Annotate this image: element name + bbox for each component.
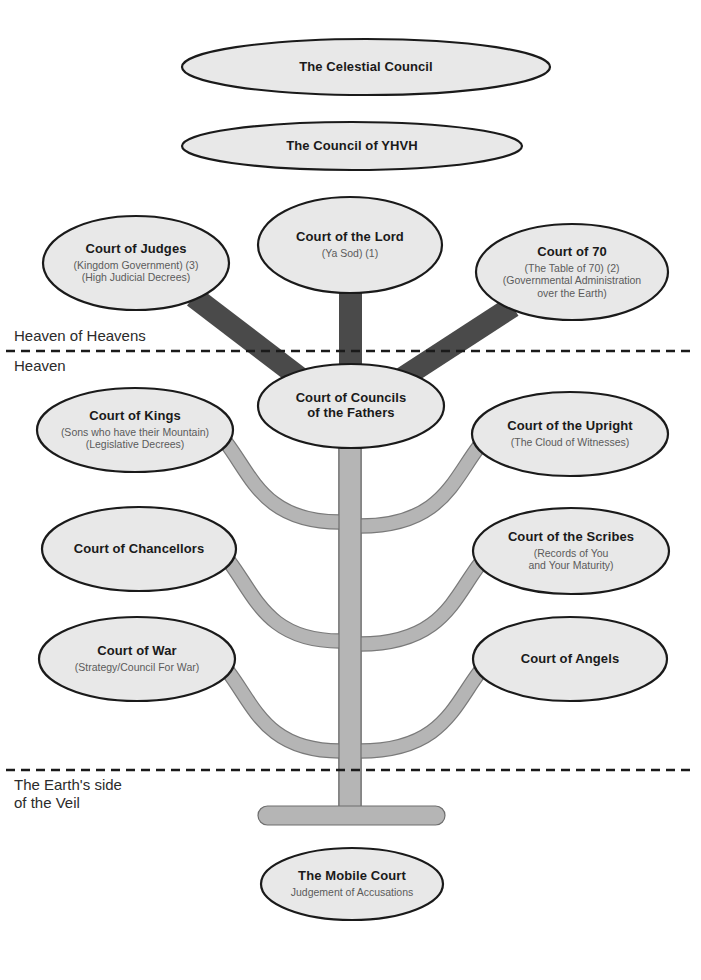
node-court-of-the-lord[interactable]: Court of the Lord(Ya Sod) (1) — [258, 197, 442, 293]
node-title: Court of Kings — [89, 409, 181, 424]
node-subtitle: (Sons who have their Mountain)(Legislati… — [61, 426, 209, 451]
node-court-of-the-upright[interactable]: Court of the Upright(The Cloud of Witnes… — [472, 392, 668, 476]
courts-diagram: The Courts The Celestial CouncilThe Coun… — [0, 0, 701, 980]
node-subtitle-line: (The Cloud of Witnesses) — [511, 436, 629, 449]
node-court-of-angels[interactable]: Court of Angels — [473, 617, 667, 701]
node-subtitle-line: (Governmental Administration — [503, 274, 641, 287]
node-title: Court of War — [97, 644, 176, 659]
node-subtitle-line: (Strategy/Council For War) — [75, 661, 199, 674]
node-title: Court of the Scribes — [508, 530, 634, 545]
node-celestial-council[interactable]: The Celestial Council — [182, 39, 550, 95]
node-title: Court of Councils of the Fathers — [296, 391, 407, 421]
node-court-of-the-scribes[interactable]: Court of the Scribes(Records of Youand Y… — [473, 508, 669, 594]
node-subtitle-line: (Sons who have their Mountain) — [61, 426, 209, 439]
node-subtitle: (Kingdom Government) (3)(High Judicial D… — [74, 259, 199, 284]
node-title: The Mobile Court — [298, 869, 406, 884]
node-subtitle: (The Cloud of Witnesses) — [511, 436, 629, 449]
node-court-of-judges[interactable]: Court of Judges(Kingdom Government) (3)(… — [43, 216, 229, 310]
node-subtitle-line: (The Table of 70) (2) — [503, 262, 641, 275]
label-overlay: The Celestial CouncilThe Council of YHVH… — [0, 0, 701, 980]
node-subtitle-line: Judgement of Accusations — [291, 886, 414, 899]
region-label-earth-side-of-veil: The Earth's side of the Veil — [14, 776, 122, 813]
region-label-heaven: Heaven — [14, 357, 66, 375]
node-subtitle: (Ya Sod) (1) — [322, 247, 378, 260]
node-subtitle-line: (Legislative Decrees) — [61, 438, 209, 451]
node-title: Court of the Upright — [507, 419, 632, 434]
node-subtitle-line: over the Earth) — [503, 287, 641, 300]
node-subtitle: Judgement of Accusations — [291, 886, 414, 899]
node-title: The Celestial Council — [299, 60, 433, 75]
node-title: The Council of YHVH — [286, 139, 418, 154]
node-subtitle: (Strategy/Council For War) — [75, 661, 199, 674]
node-court-of-kings[interactable]: Court of Kings(Sons who have their Mount… — [37, 388, 233, 472]
node-subtitle-line: (Kingdom Government) (3) — [74, 259, 199, 272]
node-court-of-councils-of-the-fathers[interactable]: Court of Councils of the Fathers — [258, 364, 444, 448]
node-title: Court of the Lord — [296, 230, 404, 245]
node-subtitle: (The Table of 70) (2)(Governmental Admin… — [503, 262, 641, 300]
node-title: Court of Angels — [521, 652, 620, 667]
node-court-of-chancellors[interactable]: Court of Chancellors — [42, 507, 236, 591]
node-subtitle-line: (Records of You — [528, 547, 613, 560]
node-title: Court of Chancellors — [74, 542, 205, 557]
node-subtitle-line: (Ya Sod) (1) — [322, 247, 378, 260]
node-subtitle-line: (High Judicial Decrees) — [74, 271, 199, 284]
node-title: Court of Judges — [85, 242, 186, 257]
node-court-of-70[interactable]: Court of 70(The Table of 70) (2)(Governm… — [476, 224, 668, 320]
node-title: Court of 70 — [537, 245, 607, 260]
node-subtitle: (Records of Youand Your Maturity) — [528, 547, 613, 572]
region-label-heaven-of-heavens: Heaven of Heavens — [14, 327, 146, 345]
node-subtitle-line: and Your Maturity) — [528, 559, 613, 572]
node-the-mobile-court[interactable]: The Mobile CourtJudgement of Accusations — [261, 848, 443, 920]
node-council-of-yhvh[interactable]: The Council of YHVH — [182, 122, 522, 170]
node-court-of-war[interactable]: Court of War(Strategy/Council For War) — [39, 617, 235, 701]
